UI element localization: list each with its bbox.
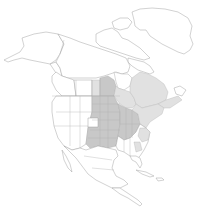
baja-california <box>62 150 72 172</box>
florida <box>130 156 142 168</box>
central-america <box>112 188 142 206</box>
alaska <box>4 32 64 64</box>
manitoba <box>100 76 116 96</box>
western-us <box>52 96 92 150</box>
baffin-island <box>128 58 154 74</box>
hispaniola <box>156 178 164 181</box>
cuba <box>136 170 154 177</box>
colorado <box>88 118 98 127</box>
alberta <box>74 80 92 96</box>
range-map <box>0 0 223 219</box>
ellesmere-island <box>112 18 132 30</box>
greenland <box>132 8 193 54</box>
saskatchewan <box>92 80 100 96</box>
newfoundland <box>174 86 186 96</box>
mexico <box>64 146 128 188</box>
